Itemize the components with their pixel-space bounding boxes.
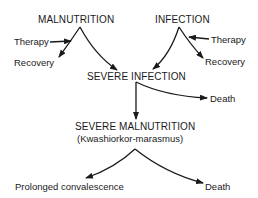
arrow-severe-malnutrition-convalescence (86, 149, 135, 178)
arrow-infection-severe-infection (153, 27, 179, 69)
arrow-therapy-right (189, 37, 209, 39)
arrow-severe-infection-death (136, 82, 207, 98)
node-recovery-right: Recovery (205, 56, 245, 67)
node-severe-malnutrition-sub: (Kwashiorkor-marasmus) (77, 133, 183, 144)
arrow-malnutrition-severe-infection (80, 27, 117, 70)
node-infection: INFECTION (155, 14, 210, 25)
node-death-1: Death (210, 93, 235, 104)
arrow-therapy-left (50, 41, 71, 42)
node-therapy-left: Therapy (14, 36, 49, 47)
node-prolonged-convalescence: Prolonged convalescence (15, 181, 124, 192)
node-severe-infection: SEVERE INFECTION (87, 71, 186, 82)
arrow-severe-malnutrition-death (135, 149, 203, 183)
node-recovery-left: Recovery (14, 57, 54, 68)
node-death-2: Death (205, 181, 230, 192)
node-severe-malnutrition: SEVERE MALNUTRITION (75, 121, 195, 132)
node-therapy-right: Therapy (211, 34, 246, 45)
arrow-infection-recovery (179, 27, 203, 58)
node-malnutrition: MALNUTRITION (38, 14, 114, 25)
